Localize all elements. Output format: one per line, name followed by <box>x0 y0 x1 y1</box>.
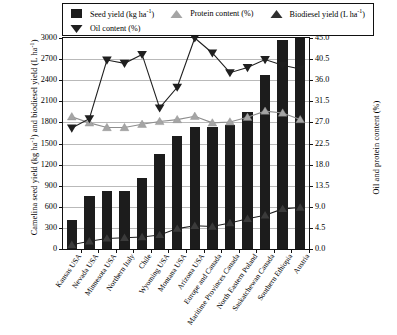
x-axis-tick <box>309 249 310 253</box>
y-axis-left-tick-label: 1500 <box>41 140 57 148</box>
y-axis-right-title: Oil and protein content (%) <box>372 68 381 228</box>
oil-content-marker <box>155 104 165 112</box>
x-axis-tick <box>186 249 187 253</box>
legend-label: Oil content (%) <box>90 24 140 33</box>
seed-yield-swatch-icon <box>68 8 85 20</box>
oil-content-marker <box>67 125 77 133</box>
y-axis-right-tick-label: 0.0 <box>315 245 325 253</box>
x-axis-tick <box>274 249 275 253</box>
y-axis-right-tick-label: 22.5 <box>315 140 329 148</box>
y-axis-left-tick <box>59 249 63 250</box>
y-axis-right-tick <box>309 38 313 39</box>
y-axis-right-tick <box>309 122 313 123</box>
y-axis-left-title-part-c: ) <box>30 39 39 42</box>
oil-content-marker <box>295 65 305 73</box>
y-axis-right-tick <box>309 207 313 208</box>
y-axis-left-title-part-a: Camelina seed yield (kg ha <box>30 142 39 235</box>
protein-content-marker <box>67 113 76 120</box>
triangle-down-dark-icon-key <box>68 23 85 35</box>
legend-key-biodiesel-yield-item[interactable]: Biodiesel yield (L ha-1) <box>268 8 366 20</box>
y-axis-right-tick-label: 31.5 <box>315 97 329 105</box>
x-axis-label: Austria <box>291 252 311 275</box>
y-axis-left-title-sup-1: -1 <box>29 137 35 142</box>
oil-content-marker <box>225 69 235 77</box>
y-axis-left-tick-label: 900 <box>45 182 57 190</box>
x-axis-tick <box>116 249 117 253</box>
y-axis-right-tick <box>309 228 313 229</box>
y-axis-left-tick-label: 0 <box>53 245 57 253</box>
oil-content-line <box>72 38 300 128</box>
y-axis-left-tick-label: 2100 <box>41 97 57 105</box>
y-axis-left-tick-label: 600 <box>45 203 57 211</box>
y-axis-right-tick-label: 36.0 <box>315 76 329 84</box>
biodiesel-yield-marker <box>155 231 164 238</box>
y-axis-right-tick-label: 4.5 <box>315 224 325 232</box>
triangle-up-dark-icon-key <box>268 8 285 20</box>
y-axis-right-tick-label: 40.5 <box>315 55 329 63</box>
y-axis-right-tick <box>309 165 313 166</box>
x-axis-tick <box>204 249 205 253</box>
triangle-down-dark-icon-wrap <box>69 23 84 35</box>
x-axis-tick <box>291 249 292 253</box>
legend-label-superscript: -1 <box>357 8 362 14</box>
y-axis-left-tick-label: 3000 <box>41 34 57 42</box>
triangle-up-dark-icon <box>270 10 282 18</box>
y-axis-right-tick <box>309 144 313 145</box>
y-axis-left-tick-label: 2400 <box>41 76 57 84</box>
x-axis-tick <box>239 249 240 253</box>
triangle-down-dark-icon <box>71 25 83 33</box>
triangle-up-light-icon-wrap <box>169 8 184 20</box>
y-axis-right-tick-label: 13.5 <box>315 182 329 190</box>
y-axis-left-tick-label: 1200 <box>41 161 57 169</box>
x-axis-tick <box>98 249 99 253</box>
y-axis-right-tick-label: 18.0 <box>315 161 329 169</box>
oil-content-marker <box>120 60 130 68</box>
legend-label-superscript: -1 <box>146 8 151 14</box>
square-icon <box>71 9 82 18</box>
triangle-up-dark-icon-wrap <box>269 8 284 20</box>
protein-content-marker <box>190 112 199 119</box>
biodiesel-yield-marker <box>190 222 199 229</box>
y-axis-right-tick-label: 27.0 <box>315 118 329 126</box>
x-axis-tick <box>133 249 134 253</box>
y-axis-left-title-part-b: ) and biodiesel yield (L ha <box>30 48 39 138</box>
biodiesel-yield-marker <box>261 211 270 218</box>
x-axis-tick <box>151 249 152 253</box>
x-axis-tick <box>221 249 222 253</box>
y-axis-left-tick-label: 1800 <box>41 118 57 126</box>
triangle-up-light-icon <box>171 10 183 18</box>
legend-label: Protein content (%) <box>190 9 253 18</box>
legend-row-2: Oil content (%) <box>68 21 368 36</box>
legend-row-1: Seed yield (kg ha-1)Protein content (%)B… <box>68 6 368 21</box>
line-series-overlay <box>63 38 309 249</box>
legend-label: Seed yield (kg ha-1) <box>90 8 154 19</box>
x-axis-tick <box>256 249 257 253</box>
y-axis-right-tick <box>309 59 313 60</box>
triangle-up-light-icon-key <box>168 8 185 20</box>
y-axis-right-tick-label: 9.0 <box>315 203 325 211</box>
y-axis-right-tick <box>309 80 313 81</box>
y-axis-right-tick <box>309 186 313 187</box>
protein-content-marker <box>296 115 305 122</box>
legend-key-protein-content-item[interactable]: Protein content (%) <box>168 8 253 20</box>
x-axis-tick <box>81 249 82 253</box>
legend-key-seed-yield-item[interactable]: Seed yield (kg ha-1) <box>68 8 154 20</box>
legend-key-oil-content-item[interactable]: Oil content (%) <box>68 23 140 35</box>
camelina-yield-chart: Camelina seed yield (kg ha-1) and biodie… <box>0 0 397 335</box>
y-axis-left-tick-label: 2700 <box>41 55 57 63</box>
y-axis-left-title-sup-2: -1 <box>29 42 35 47</box>
x-axis-label: Chile <box>137 252 154 271</box>
oil-content-marker <box>137 51 147 59</box>
biodiesel-yield-marker <box>296 203 305 210</box>
chart-legend: Seed yield (kg ha-1)Protein content (%)B… <box>62 3 374 36</box>
legend-label: Biodiesel yield (L ha-1) <box>290 8 366 19</box>
plot-area: 03006009001200150018002100240027003000 0… <box>62 37 310 250</box>
y-axis-left-tick-label: 300 <box>45 224 57 232</box>
y-axis-left-title: Camelina seed yield (kg ha-1) and biodie… <box>29 37 40 237</box>
x-axis-tick <box>168 249 169 253</box>
y-axis-right-tick <box>309 101 313 102</box>
protein-content-marker <box>261 107 270 114</box>
